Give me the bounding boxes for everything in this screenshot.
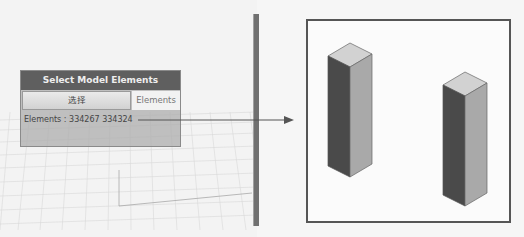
arrow-head-icon	[284, 116, 294, 124]
columns-3d-view	[308, 21, 509, 221]
column-334267	[328, 43, 372, 177]
column-334324	[443, 72, 487, 206]
revit-3d-preview-frame	[306, 19, 511, 223]
